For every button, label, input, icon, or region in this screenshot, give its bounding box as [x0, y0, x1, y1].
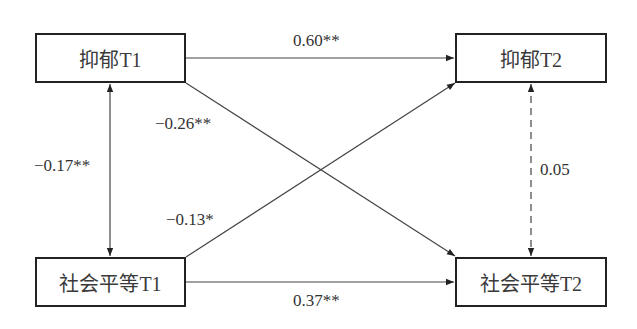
- edge-label-dep-t1-soc-t2: −0.26**: [155, 114, 211, 134]
- node-label: 抑郁T2: [500, 44, 562, 73]
- edge-label-dep-t2-soc-t2: 0.05: [540, 160, 570, 180]
- node-social-equality-t2: 社会平等T2: [455, 257, 607, 307]
- node-depression-t2: 抑郁T2: [455, 33, 607, 83]
- edge-label-dep-t1-soc-t1: −0.17**: [34, 156, 90, 176]
- node-label: 社会平等T1: [59, 268, 161, 297]
- node-social-equality-t1: 社会平等T1: [35, 257, 186, 307]
- edge-label-soc-t1-soc-t2: 0.37**: [293, 291, 340, 311]
- edge-label-soc-t1-dep-t2: −0.13*: [166, 210, 214, 230]
- edge-label-dep-t1-dep-t2: 0.60**: [293, 31, 340, 51]
- node-depression-t1: 抑郁T1: [35, 33, 186, 83]
- node-label: 社会平等T2: [480, 268, 582, 297]
- node-label: 抑郁T1: [79, 44, 141, 73]
